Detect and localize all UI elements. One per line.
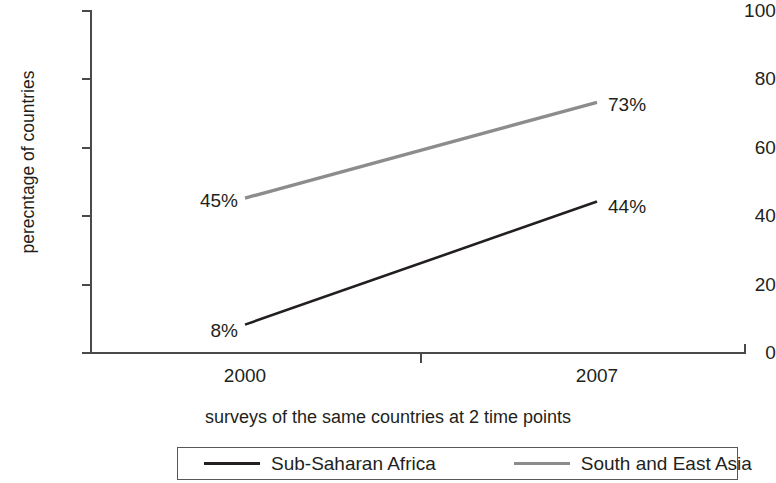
- legend-label-south-and-east-asia: South and East Asia: [581, 454, 752, 473]
- y-axis-title: perecntage of countries: [18, 42, 38, 282]
- series-line-sub-saharan-africa: [245, 202, 597, 325]
- data-label-asia-2007: 73%: [608, 95, 688, 114]
- legend-swatch-line-icon: [204, 462, 260, 465]
- y-axis-line: [90, 10, 92, 354]
- y-tick-100: [82, 10, 90, 12]
- x-tick-label-2000: 2000: [190, 366, 300, 385]
- x-tick-label-2007: 2007: [542, 366, 652, 385]
- y-tick-label-40: 40: [712, 206, 776, 225]
- series-line-south-and-east-asia: [245, 102, 597, 198]
- data-label-africa-2007: 44%: [608, 197, 688, 216]
- legend-item-sub-saharan-africa: Sub-Saharan Africa: [204, 454, 436, 473]
- data-label-asia-2000: 45%: [168, 191, 238, 210]
- y-tick-label-100: 100: [712, 1, 776, 20]
- y-tick-label-60: 60: [712, 138, 776, 157]
- y-tick-80: [82, 78, 90, 80]
- x-axis-title: surveys of the same countries at 2 time …: [0, 406, 776, 428]
- chart-canvas: perecntage of countries 100 80 60 40 20 …: [0, 0, 776, 483]
- y-tick-20: [82, 284, 90, 286]
- y-tick-0: [82, 352, 90, 354]
- x-tick-mid: [420, 354, 422, 363]
- x-axis-line: [90, 352, 746, 354]
- y-tick-40: [82, 215, 90, 217]
- y-tick-60: [82, 147, 90, 149]
- legend-label-sub-saharan-africa: Sub-Saharan Africa: [271, 454, 436, 473]
- x-axis-endcap: [744, 344, 746, 353]
- chart-legend: Sub-Saharan Africa South and East Asia: [177, 447, 738, 480]
- y-tick-label-80: 80: [712, 69, 776, 88]
- legend-item-south-and-east-asia: South and East Asia: [514, 454, 752, 473]
- data-label-africa-2000: 8%: [168, 321, 238, 340]
- legend-swatch-line-icon: [514, 462, 570, 465]
- y-tick-label-20: 20: [712, 275, 776, 294]
